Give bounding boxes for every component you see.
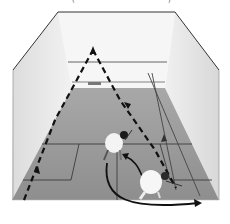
court-frame: [12, 12, 219, 200]
squash-court-illustration: [0, 0, 230, 224]
front-wall: [58, 12, 175, 88]
tin-marker: [88, 82, 101, 85]
